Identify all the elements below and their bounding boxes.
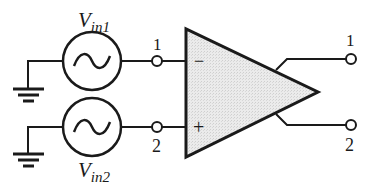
circuit-diagram: Vin1 1 Vin2 2 − + 1 2 — [0, 0, 365, 186]
amplifier-triangle — [186, 29, 318, 157]
sine-wave-icon — [74, 54, 110, 68]
ground-2 — [13, 127, 62, 166]
source-vin1: Vin1 — [63, 8, 121, 90]
ground-2-wire — [28, 127, 62, 153]
noninverting-input-sign: + — [193, 116, 204, 138]
sine-wave-icon — [74, 120, 110, 134]
input-terminal-1-label: 1 — [153, 35, 162, 54]
output-1-wire — [276, 59, 346, 70]
input-terminal-2 — [152, 122, 162, 132]
output-terminal-1 — [346, 54, 356, 64]
input-terminal-2-label: 2 — [152, 136, 161, 156]
inverting-input-sign: − — [194, 51, 204, 71]
vin2-label: Vin2 — [78, 158, 110, 185]
input-terminal-1 — [152, 56, 162, 66]
output-terminal-1-label: 1 — [346, 31, 355, 50]
ground-1 — [13, 61, 62, 101]
vin1-label: Vin1 — [78, 8, 110, 35]
output-2-wire — [276, 114, 346, 125]
source-vin2: Vin2 — [63, 98, 121, 185]
output-terminal-2 — [346, 120, 356, 130]
ground-1-wire — [28, 61, 62, 88]
output-terminal-2-label: 2 — [345, 135, 354, 155]
